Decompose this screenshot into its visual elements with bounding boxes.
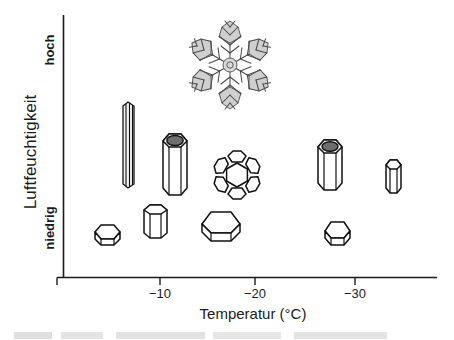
crystal-marker-thick-hexagonal-plate <box>202 212 240 241</box>
crystal-marker-hollow-column-cold <box>318 140 342 190</box>
crystal-marker-thin-hexagonal-plate <box>95 225 120 245</box>
crystal-marker-dendrite-snowflake <box>186 21 273 109</box>
x-tick-label-minus10: −10 <box>149 286 171 301</box>
crystal-marker-needle-crystal <box>123 102 134 188</box>
crystal-marker-hollow-column <box>163 134 187 195</box>
crystal-marker-short-hexagonal-column <box>144 205 167 238</box>
x-axis-title: Temperatur (°C) <box>200 305 307 322</box>
crystal-marker-short-column-cold <box>386 160 401 193</box>
crystal-marker-sectored-plate <box>212 151 263 199</box>
y-axis-label-high: hoch <box>42 34 57 65</box>
y-axis-title: Luftfeuchtigkeit <box>21 95 40 210</box>
x-tick-label-minus30: −30 <box>344 286 366 301</box>
hollow-column-cold-cavity-icon <box>322 142 338 152</box>
hollow-column-cavity-icon <box>167 136 183 146</box>
x-tick-label-minus20: −20 <box>244 286 266 301</box>
snow-crystal-morphology-figure: −10 −20 −30 Temperatur (°C) Luftfeuchtig… <box>0 0 454 340</box>
plot-area: −10 −20 −30 Temperatur (°C) Luftfeuchtig… <box>0 0 454 340</box>
y-axis-label-low: niedrig <box>42 206 57 249</box>
crystal-marker-small-hexagonal-plate <box>325 222 350 245</box>
caption-text-cropped <box>14 332 438 339</box>
